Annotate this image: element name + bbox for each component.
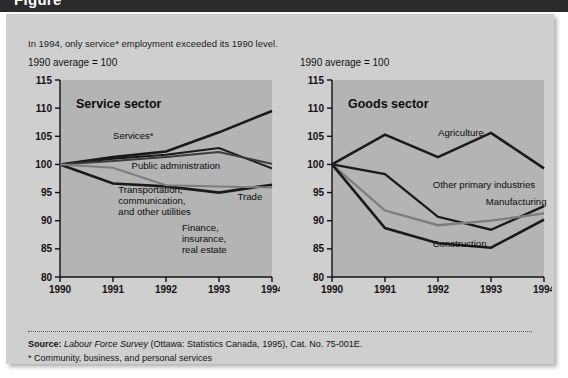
annotation: Other primary industries [433,179,536,190]
annotation: Trade [238,191,263,202]
annotation-label: Services* [113,130,154,141]
banner-title: Figure [14,0,62,8]
y-tick-label: 85 [41,243,53,254]
y-tick-label: 110 [308,103,325,114]
y-tick-label: 80 [41,272,53,283]
axis-note-right: 1990 average = 100 [300,57,389,68]
x-tick-label: 1994 [261,284,280,295]
y-tick-label: 95 [41,187,53,198]
y-tick-label: 85 [313,243,325,254]
annotation-label: Agriculture [438,127,484,138]
annotation: Agriculture [438,127,484,138]
figure-panel: In 1994, only service* employment exceed… [6,14,554,364]
x-tick-label: 1990 [49,284,72,295]
y-tick-label: 100 [35,159,52,170]
chart-svg: 8085909510010511011519901991199219931994… [24,72,280,312]
annotation: Services* [113,130,154,141]
annotation: Public administration [132,160,221,171]
source-divider [28,331,532,332]
source-label: Source: [28,339,62,349]
y-tick-label: 100 [307,159,324,170]
source-footnote: * Community, business, and personal serv… [28,353,212,363]
x-tick-label: 1992 [155,284,178,295]
annotation-label: Trade [238,191,263,202]
chart-service-sector: 8085909510010511011519901991199219931994… [24,72,280,312]
x-tick-label: 1994 [533,284,552,295]
annotation-label: communication, [118,195,185,206]
source-text: Source: Labour Force Survey (Ottawa: Sta… [28,339,362,349]
x-tick-label: 1992 [427,284,450,295]
annotation-label: Transportation, [118,184,182,195]
axis-note-left: 1990 average = 100 [28,57,117,68]
y-tick-label: 90 [313,215,325,226]
annotation-label: Finance, [182,222,219,233]
annotation-label: insurance, [182,233,226,244]
chart-title: Goods sector [348,97,429,111]
y-tick-label: 110 [36,103,53,114]
chart-title: Service sector [76,97,162,111]
figure-subtitle: In 1994, only service* employment exceed… [28,38,278,49]
annotation: Construction [433,238,487,249]
y-tick-label: 90 [41,215,53,226]
chart-goods-sector: 8085909510010511011519901991199219931994… [296,72,552,312]
annotation-label: Manufacturing [486,196,547,207]
figure-banner: Figure [0,0,568,12]
source-title: Labour Force Survey [64,339,148,349]
annotation: Transportation,communication,and other u… [118,184,191,217]
annotation: Manufacturing [486,196,547,207]
y-tick-label: 115 [308,75,325,86]
y-tick-label: 105 [35,131,52,142]
x-tick-label: 1993 [480,284,503,295]
annotation-label: real estate [182,244,227,255]
y-tick-label: 105 [307,131,324,142]
figure-container: Figure In 1994, only service* employment… [0,0,568,378]
y-tick-label: 115 [36,75,53,86]
y-tick-label: 80 [313,272,325,283]
annotation-label: and other utilities [118,206,191,217]
chart-svg: 8085909510010511011519901991199219931994… [296,72,552,312]
source-rest: (Ottawa: Statistics Canada, 1995), Cat. … [148,339,362,349]
x-tick-label: 1993 [208,284,231,295]
y-tick-label: 95 [313,187,325,198]
x-tick-label: 1990 [321,284,344,295]
annotation-label: Construction [433,238,487,249]
x-tick-label: 1991 [102,284,125,295]
annotation-label: Public administration [132,160,221,171]
annotation-label: Other primary industries [433,179,536,190]
x-tick-label: 1991 [374,284,397,295]
